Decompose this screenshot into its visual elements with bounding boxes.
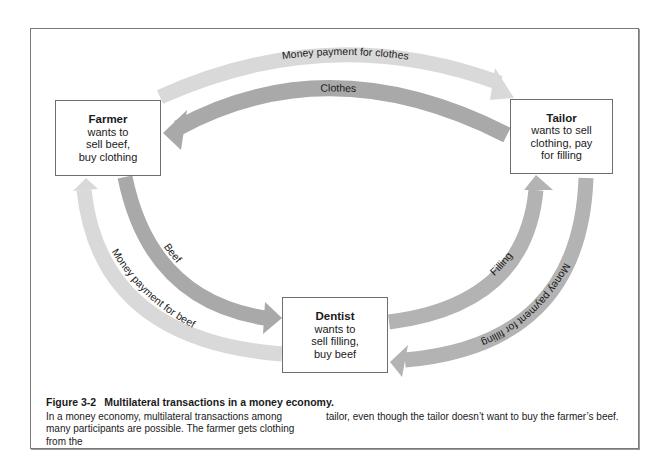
dentist-line: wants to xyxy=(315,323,356,336)
clothes-label: Clothes xyxy=(320,81,356,94)
farmer-line: buy clothing xyxy=(79,151,138,164)
tailor-line: for filling xyxy=(541,149,582,162)
money-for-beef-arrow xyxy=(73,178,282,354)
figure-caption: Figure 3-2Multilateral transactions in a… xyxy=(46,396,626,448)
caption-column-2: tailor, even though the tailor doesn’t w… xyxy=(326,411,626,449)
caption-column-1: In a money economy, multilateral transac… xyxy=(46,411,308,449)
tailor-title: Tailor xyxy=(546,112,576,125)
figure-title: Figure 3-2Multilateral transactions in a… xyxy=(46,396,626,409)
tailor-node: Tailor wants to sell clothing, pay for f… xyxy=(510,99,613,174)
tailor-line: clothing, pay xyxy=(531,137,593,150)
clothes-arrow xyxy=(163,88,507,150)
farmer-line: sell beef, xyxy=(86,138,130,151)
farmer-line: wants to xyxy=(88,126,129,139)
dentist-line: buy beef xyxy=(314,348,356,361)
dentist-title: Dentist xyxy=(316,310,355,323)
figure-number: Figure 3-2 xyxy=(46,396,96,408)
farmer-title: Farmer xyxy=(89,113,128,126)
farmer-node: Farmer wants to sell beef, buy clothing xyxy=(55,100,161,176)
flow-arrows: Money payment for clothes Clothes Beef M… xyxy=(0,0,668,457)
dentist-line: sell filling, xyxy=(311,335,359,348)
figure-title-text: Multilateral transactions in a money eco… xyxy=(104,396,334,408)
filling-arrow xyxy=(389,175,553,322)
dentist-node: Dentist wants to sell filling, buy beef xyxy=(282,297,388,373)
tailor-line: wants to sell xyxy=(531,124,592,137)
